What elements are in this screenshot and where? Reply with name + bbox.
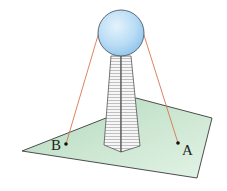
diagram-canvas: B A — [0, 0, 227, 191]
point-a-dot — [176, 141, 180, 145]
point-a-label: A — [182, 142, 193, 158]
sphere — [98, 10, 144, 56]
tower-left-face — [104, 56, 121, 152]
tower-diagram: B A — [0, 0, 227, 191]
point-b-label: B — [51, 137, 61, 153]
point-b-dot — [64, 142, 68, 146]
tower — [104, 56, 140, 152]
